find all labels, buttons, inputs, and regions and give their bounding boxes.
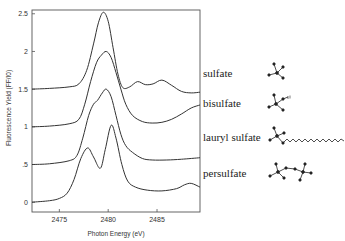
- persulfate-molecule-icon: [269, 163, 312, 181]
- x-axis-title: Photon Energy (eV): [87, 230, 144, 238]
- x-tick-label: 2485: [149, 216, 165, 223]
- bisulfate-molecule-icon: [268, 94, 290, 111]
- y-axis-ticks: 0.511.522.5: [18, 10, 35, 205]
- y-tick-label: 0: [24, 199, 28, 206]
- lauryl-sulfate-molecule-icon: [269, 127, 344, 144]
- y-tick-label: 2.5: [18, 10, 28, 17]
- y-axis-title: Fluorescence Yield (FF/I0): [5, 70, 13, 146]
- x-tick-label: 2480: [100, 216, 116, 223]
- series-label-lauryl-sulfate: lauryl sulfate: [203, 131, 261, 143]
- curve-lauryl-sulfate: [32, 89, 200, 164]
- sulfate-molecule-icon: [268, 63, 284, 79]
- series-label-persulfate: persulfate: [203, 167, 246, 179]
- x-axis-ticks: 247524802485: [52, 209, 165, 223]
- plot-border: [32, 10, 200, 212]
- curve-persulfate: [32, 125, 200, 202]
- spectra-curves: [32, 12, 200, 202]
- series-labels: sulfate bisulfate lauryl sulfate persulf…: [203, 67, 261, 179]
- y-tick-label: .5: [22, 161, 28, 168]
- y-tick-label: 2: [24, 48, 28, 55]
- y-tick-label: 1.5: [18, 86, 28, 93]
- series-label-bisulfate: bisulfate: [203, 97, 241, 109]
- plot-frame: [32, 10, 200, 212]
- xanes-chart: 247524802485 0.511.522.5 Photon Energy (…: [0, 0, 345, 241]
- x-tick-label: 2475: [52, 216, 68, 223]
- curve-sulfate: [32, 12, 200, 93]
- y-tick-label: 1: [24, 123, 28, 130]
- series-label-sulfate: sulfate: [203, 67, 232, 79]
